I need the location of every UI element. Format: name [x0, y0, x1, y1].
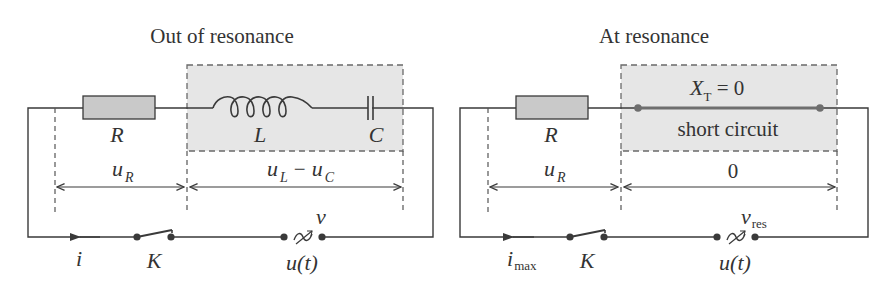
voltage-label-resistor: uR: [544, 156, 566, 185]
resistor-icon: [83, 96, 155, 119]
ac-source-icon: [280, 231, 325, 244]
current-label: imax: [507, 246, 537, 273]
ac-source-icon: [713, 231, 758, 244]
inductor-label: L: [253, 122, 266, 147]
resistor-label: R: [109, 122, 124, 147]
voltage-label-reactive: 0: [728, 159, 739, 183]
panel-at-resonance: At resonance XT = 0 short circuit R uR 0: [460, 24, 868, 275]
short-circuit-label: short circuit: [678, 117, 779, 141]
panel-out-of-resonance: Out of resonance R L C uR: [28, 24, 433, 275]
resistor-icon: [516, 96, 588, 119]
panel-title: Out of resonance: [150, 24, 293, 48]
panel-title: At resonance: [599, 24, 709, 48]
voltage-label-resistor: uR: [112, 156, 134, 185]
current-label: i: [76, 246, 82, 271]
source-label: u(t): [719, 250, 751, 275]
frequency-label: ν: [316, 204, 326, 229]
switch-icon: [566, 230, 607, 241]
resistor-label: R: [543, 122, 558, 147]
resonance-diagram: Out of resonance R L C uR: [0, 0, 893, 285]
switch-label: K: [146, 248, 163, 273]
voltage-label-reactive: uL−uC: [267, 156, 335, 185]
switch-icon: [133, 230, 174, 241]
reactance-label: XT = 0: [689, 75, 744, 104]
source-label: u(t): [286, 250, 318, 275]
switch-label: K: [579, 248, 596, 273]
frequency-label: νres: [741, 204, 767, 231]
capacitor-label: C: [369, 122, 384, 147]
